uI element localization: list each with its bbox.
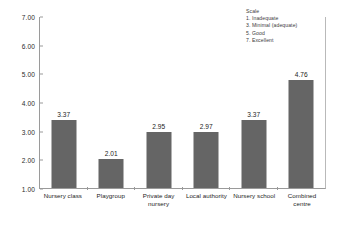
bar-group[interactable]: 3.37 xyxy=(40,17,88,188)
y-axis-tick-label: 5.00 xyxy=(22,71,40,78)
x-axis-labels: Nursery classPlaygroupPrivate daynursery… xyxy=(39,192,326,209)
bar-group[interactable]: 2.01 xyxy=(88,17,136,188)
bar[interactable] xyxy=(99,159,124,188)
bar-group[interactable]: 4.76 xyxy=(278,17,326,188)
y-axis-tick-label: 2.00 xyxy=(22,157,40,164)
bar-value-label: 2.01 xyxy=(105,150,118,157)
bar[interactable] xyxy=(194,132,219,188)
bar-value-label: 2.97 xyxy=(200,123,213,130)
y-axis-tick-label: 1.00 xyxy=(22,186,40,193)
bar[interactable] xyxy=(146,132,171,188)
bar-value-label: 3.37 xyxy=(57,111,70,118)
bar-value-label: 2.95 xyxy=(152,123,165,130)
bar-group[interactable]: 2.95 xyxy=(135,17,183,188)
bar-value-label: 3.37 xyxy=(247,111,260,118)
bar[interactable] xyxy=(241,120,266,188)
bar-series: 3.372.012.952.973.374.76 xyxy=(40,17,325,188)
legend-title: Scale xyxy=(246,8,338,15)
x-axis-category-label: Nursery school xyxy=(230,192,278,209)
y-axis-tick-label: 3.00 xyxy=(22,128,40,135)
x-axis-category-label: Local authority xyxy=(182,192,230,209)
x-axis-category-label: Private daynursery xyxy=(135,192,183,209)
bar-chart: Scale 1. Inadequate 3. Minimal (adequate… xyxy=(0,0,342,234)
y-axis-tick-mark xyxy=(40,189,43,190)
plot-area: 7.006.005.004.003.002.001.00 3.372.012.9… xyxy=(39,17,326,189)
x-axis-category-label: Combinedcentre xyxy=(278,192,326,209)
bar[interactable] xyxy=(289,80,314,188)
bar-value-label: 4.76 xyxy=(295,71,308,78)
y-axis-tick-label: 4.00 xyxy=(22,100,40,107)
bar-group[interactable]: 2.97 xyxy=(183,17,231,188)
x-axis-category-label: Nursery class xyxy=(39,192,87,209)
y-axis-tick-label: 6.00 xyxy=(22,42,40,49)
bar-group[interactable]: 3.37 xyxy=(230,17,278,188)
y-axis-tick-label: 7.00 xyxy=(22,14,40,21)
x-axis-category-label: Playgroup xyxy=(87,192,135,209)
bar[interactable] xyxy=(51,120,76,188)
